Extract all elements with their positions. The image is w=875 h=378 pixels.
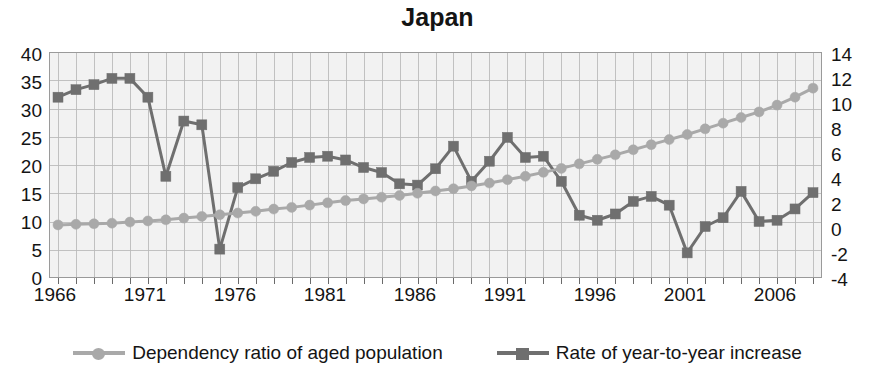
y-axis-left-tick-20: 20	[2, 157, 42, 176]
x-axis-tick-2001: 2001	[650, 285, 720, 304]
x-axis-tick-1991: 1991	[470, 285, 540, 304]
y-axis-right-tick-8: 8	[831, 120, 875, 139]
x-axis-tick-1971: 1971	[110, 285, 180, 304]
chart-legend: Dependency ratio of aged population Rate…	[0, 336, 875, 370]
y-axis-right-tick-4: 4	[831, 170, 875, 189]
plot-area	[49, 52, 822, 278]
y-axis-left-tick-35: 35	[2, 73, 42, 92]
x-axis-tick-1996: 1996	[560, 285, 630, 304]
circle-marker-icon	[92, 348, 105, 360]
y-axis-left-tick-25: 25	[2, 129, 42, 148]
legend-label-dependency: Dependency ratio of aged population	[132, 343, 443, 363]
y-axis-left-tick-30: 30	[2, 101, 42, 120]
x-axis-tick-1981: 1981	[290, 285, 360, 304]
y-axis-right-tick-neg2: -2	[831, 245, 875, 264]
chart-title: Japan	[0, 2, 875, 32]
legend-item-rate-of-increase[interactable]: Rate of year-to-year increase	[497, 343, 802, 363]
y-axis-left-tick-40: 40	[2, 45, 42, 64]
y-axis-left-tick-10: 10	[2, 213, 42, 232]
chart-plot-svg	[49, 52, 822, 278]
y-axis-right-tick-14: 14	[831, 45, 875, 64]
x-axis-tick-1966: 1966	[20, 285, 90, 304]
y-axis-right-tick-10: 10	[831, 95, 875, 114]
x-axis-tick-1976: 1976	[200, 285, 270, 304]
y-axis-right-tick-0: 0	[831, 220, 875, 239]
legend-swatch-rate	[497, 345, 549, 361]
chart-figure: Japan 40 35 30 25 20 15 10 5 0 14 12 10 …	[0, 0, 875, 378]
legend-swatch-dependency	[73, 345, 125, 361]
legend-label-rate: Rate of year-to-year increase	[556, 343, 802, 363]
x-axis-tick-2006: 2006	[740, 285, 810, 304]
y-axis-left-tick-15: 15	[2, 185, 42, 204]
legend-item-dependency-ratio[interactable]: Dependency ratio of aged population	[73, 343, 443, 363]
y-axis-left-tick-5: 5	[2, 241, 42, 260]
x-axis-tick-1986: 1986	[380, 285, 450, 304]
y-axis-right-tick-neg4: -4	[831, 270, 875, 289]
square-marker-icon	[516, 348, 529, 360]
y-axis-right-tick-12: 12	[831, 70, 875, 89]
y-axis-right-tick-6: 6	[831, 145, 875, 164]
y-axis-right-tick-2: 2	[831, 195, 875, 214]
x-axis-ticks	[49, 278, 824, 286]
